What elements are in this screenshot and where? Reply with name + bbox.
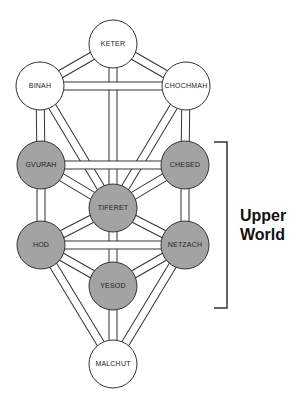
world-label: World — [240, 225, 286, 244]
node-label-netzach: NETZACH — [168, 241, 202, 248]
node-label-gvurah: GVURAH — [25, 161, 56, 168]
node-label-malchut: MALCHUT — [95, 360, 131, 367]
upper-label: Upper — [240, 206, 286, 225]
node-label-tiferet: TIFERET — [98, 204, 129, 211]
node-label-binah: BINAH — [29, 82, 51, 89]
tree-graphic: KETERBINAHCHOCHMAHGVURAHCHESEDTIFERETHOD… — [0, 0, 302, 409]
upper-world-label: Upper World — [240, 206, 286, 244]
node-label-chesed: CHESED — [170, 161, 200, 168]
node-label-yesod: YESOD — [100, 282, 126, 289]
node-label-chochmah: CHOCHMAH — [165, 82, 208, 89]
sefirot-diagram: KETERBINAHCHOCHMAHGVURAHCHESEDTIFERETHOD… — [0, 0, 302, 409]
upper-world-bracket — [214, 142, 227, 308]
node-label-hod: HOD — [33, 241, 49, 248]
node-label-keter: KETER — [101, 40, 125, 47]
